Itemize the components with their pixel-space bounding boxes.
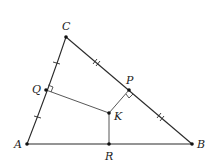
label-r: R — [104, 150, 113, 163]
segment-qk — [46, 90, 109, 113]
point-p — [127, 88, 131, 92]
label-c: C — [62, 20, 71, 33]
label-q: Q — [32, 83, 41, 96]
point-c — [64, 35, 68, 39]
label-k: K — [113, 110, 123, 123]
point-q — [44, 88, 48, 92]
label-b: B — [196, 138, 205, 151]
point-a — [25, 142, 29, 146]
point-b — [190, 142, 194, 146]
label-p: P — [125, 74, 134, 87]
label-a: A — [13, 138, 22, 151]
right-angle-mark-p — [126, 94, 133, 98]
point-r — [107, 142, 111, 146]
point-k — [107, 111, 111, 115]
geometry-diagram: A B C Q P K R — [0, 0, 212, 168]
